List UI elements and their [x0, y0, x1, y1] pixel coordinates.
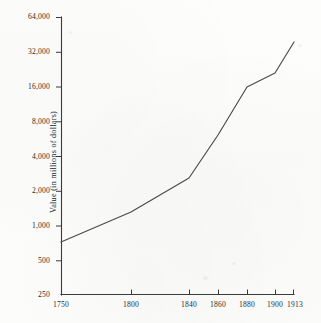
x-tick-label: 1913	[287, 301, 303, 309]
y-tick-label: 2,000	[2, 188, 50, 196]
y-axis-title: Value (in millions of dollars)	[49, 110, 58, 212]
y-tick-label: 8,000	[2, 118, 50, 126]
data-line-value	[61, 42, 294, 242]
x-tick-label: 1840	[181, 301, 197, 309]
y-tick-label: 16,000	[2, 83, 50, 91]
x-tick-label: 1800	[123, 301, 139, 309]
y-tick-label: 64,000	[2, 13, 50, 21]
y-tick-label: 4,000	[2, 153, 50, 161]
x-tick-label: 1900	[267, 301, 283, 309]
y-tick-label: 32,000	[2, 49, 50, 57]
x-tick-label: 1750	[53, 301, 69, 309]
x-tick-label: 1880	[239, 301, 255, 309]
y-tick-label: 500	[2, 257, 50, 265]
y-tick-label: 1,000	[2, 222, 50, 230]
y-tick-label: 250	[2, 291, 50, 299]
x-tick-label: 1860	[210, 301, 226, 309]
chart-figure: 64,000 32,000 16,000 8,000 4,000 2,000 1…	[0, 0, 321, 323]
